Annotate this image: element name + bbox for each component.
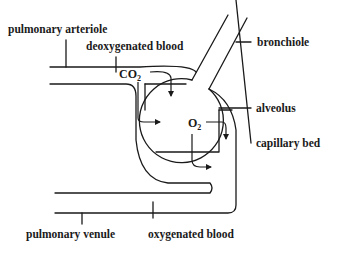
label-deoxygenated-blood: deoxygenated blood xyxy=(86,40,184,53)
label-bronchiole: bronchiole xyxy=(257,36,309,48)
alveolus xyxy=(139,79,223,163)
label-capillary-bed: capillary bed xyxy=(256,137,321,150)
co2-arrows xyxy=(138,72,171,122)
capillary-outer-wall xyxy=(50,66,236,213)
label-oxygenated-blood: oxygenated blood xyxy=(148,228,235,241)
label-alveolus: alveolus xyxy=(256,102,296,114)
label-o2: O2 xyxy=(188,116,201,132)
gas-exchange-diagram: pulmonary arteriole deoxygenated blood b… xyxy=(0,0,340,259)
label-pulmonary-venule: pulmonary venule xyxy=(26,228,115,241)
capillary-inner-wall xyxy=(50,84,212,193)
label-pulmonary-arteriole: pulmonary arteriole xyxy=(8,23,107,36)
label-co2: CO2 xyxy=(119,67,141,83)
